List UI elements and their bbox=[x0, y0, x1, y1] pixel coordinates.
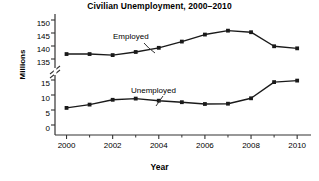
data-point-marker-unemployed bbox=[111, 98, 115, 102]
data-point-marker-unemployed bbox=[272, 80, 276, 84]
data-point-marker-employed bbox=[65, 52, 69, 56]
leader-line-employed bbox=[144, 43, 155, 53]
data-point-marker-unemployed bbox=[203, 102, 207, 106]
data-point-marker-employed bbox=[272, 44, 276, 48]
data-point-marker-employed bbox=[134, 50, 138, 54]
data-point-marker-unemployed bbox=[226, 102, 230, 106]
data-point-marker-employed bbox=[180, 40, 184, 44]
data-point-marker-unemployed bbox=[295, 79, 299, 83]
data-point-marker-unemployed bbox=[134, 97, 138, 101]
data-point-marker-employed bbox=[88, 52, 92, 56]
data-point-marker-unemployed bbox=[180, 100, 184, 104]
data-point-marker-unemployed bbox=[88, 103, 92, 107]
data-point-marker-unemployed bbox=[249, 96, 253, 100]
data-point-marker-employed bbox=[249, 30, 253, 34]
data-point-marker-employed bbox=[226, 29, 230, 33]
data-point-marker-employed bbox=[295, 46, 299, 50]
chart-container: Civilian Unemployment, 2000–2010 Million… bbox=[0, 0, 319, 181]
chart-plot-area bbox=[0, 0, 319, 181]
data-point-marker-employed bbox=[157, 46, 161, 50]
data-point-marker-employed bbox=[203, 33, 207, 37]
data-point-marker-unemployed bbox=[65, 106, 69, 110]
data-point-marker-employed bbox=[111, 53, 115, 57]
